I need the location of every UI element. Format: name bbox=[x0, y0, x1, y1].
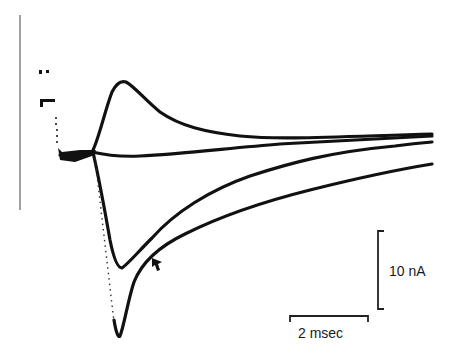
stimulus-marks bbox=[39, 70, 58, 143]
time-scale-label: 2 msec bbox=[298, 325, 343, 341]
trace-inward-current-slow bbox=[114, 164, 432, 336]
time-scale-bar bbox=[290, 316, 368, 322]
trace-outward-transient bbox=[60, 81, 432, 155]
arrow-marker-icon bbox=[152, 258, 162, 271]
current-scale-bar bbox=[378, 231, 384, 309]
current-trace-figure: 10 nA 2 msec bbox=[0, 0, 461, 363]
current-scale-label: 10 nA bbox=[389, 263, 426, 279]
